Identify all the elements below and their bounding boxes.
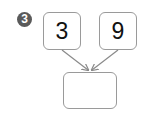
answer-box[interactable] xyxy=(63,72,117,109)
left-arrow xyxy=(62,50,88,70)
right-arrow xyxy=(92,50,118,70)
